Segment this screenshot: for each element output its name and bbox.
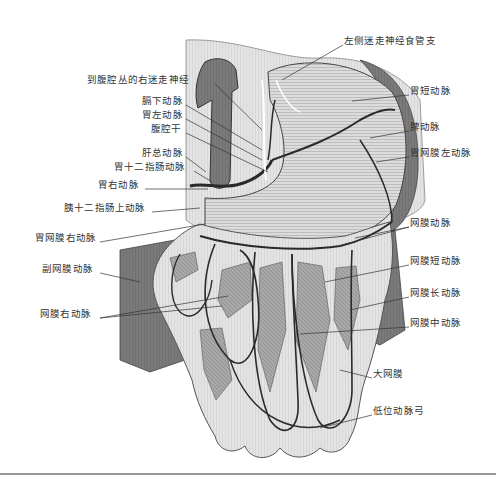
label-splenic-artery: 脾动脉 [410,121,441,132]
label-middle-omental-artery: 网膜中动脉 [410,317,461,328]
label-low-arterial-arc: 低位动脉弓 [373,405,424,416]
label-inferior-phrenic-artery: 膈下动脉 [142,95,183,106]
label-gastroduodenal-artery: 胃十二指肠动脉 [114,161,185,172]
anatomical-illustration: 到腹腔丛的右迷走神经 膈下动脉 胃左动脉 腹腔干 肝总动脉 胃十二指肠动脉 胃右… [0,0,496,496]
label-short-gastric-artery: 胃短动脉 [410,85,451,96]
label-long-omental-artery: 网膜长动脉 [410,287,461,298]
label-celiac-trunk: 腹腔干 [151,123,182,134]
label-left-vagus-esophageal-branch: 左侧迷走神经食管支 [344,35,436,46]
label-greater-omentum: 大网膜 [373,368,404,379]
label-left-gastroepiploic-artery: 胃网膜左动脉 [410,147,471,158]
label-right-gastric-artery: 胃右动脉 [98,179,139,190]
label-right-vagus-to-celiac: 到腹腔丛的右迷走神经 [87,74,189,85]
stomach-omentum-drawing [0,0,496,496]
label-supraduodenal-artery: 胰十二指肠上动脉 [64,202,146,213]
label-omental-artery: 网膜动脉 [410,217,451,228]
label-left-gastric-artery: 胃左动脉 [142,109,183,120]
bottom-divider [0,473,496,475]
label-accessory-omental-artery: 副网膜动脉 [42,263,93,274]
label-right-omental-artery: 网膜右动脉 [40,308,91,319]
label-common-hepatic-artery: 肝总动脉 [142,147,183,158]
label-right-gastroepiploic-artery: 胃网膜右动脉 [35,232,96,243]
label-short-omental-artery: 网膜短动脉 [410,255,461,266]
